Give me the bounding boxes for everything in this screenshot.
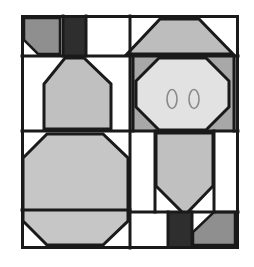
bottom-dark-vertical-bar xyxy=(169,213,191,246)
mid-left-band xyxy=(21,56,130,131)
bottom-right-quadrant xyxy=(130,131,238,248)
top-left-dark-vertical-bar xyxy=(64,17,85,55)
face-panel xyxy=(131,57,237,131)
top-left-quadrant xyxy=(21,15,130,56)
face-octagon xyxy=(136,58,229,130)
geometric-quilt-block xyxy=(0,0,254,267)
top-right-quadrant xyxy=(127,15,238,56)
pattern-canvas xyxy=(0,0,254,267)
bottom-left-quadrant xyxy=(21,131,130,248)
bottom-left-octagon xyxy=(23,134,128,245)
